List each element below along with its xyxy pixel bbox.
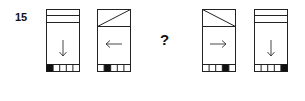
card-2-drawing bbox=[97, 9, 131, 72]
figure-card-1 bbox=[46, 9, 79, 71]
cell-strip bbox=[203, 65, 236, 72]
card-1-drawing bbox=[46, 9, 80, 72]
cell-strip bbox=[98, 65, 131, 72]
figure-card-2 bbox=[97, 9, 130, 71]
cell-strip bbox=[47, 65, 80, 72]
figure-card-4 bbox=[254, 9, 287, 71]
card-4-drawing bbox=[254, 9, 288, 72]
cell-strip bbox=[255, 65, 288, 72]
card-3-drawing bbox=[202, 9, 236, 72]
figure-card-3 bbox=[202, 9, 235, 71]
missing-figure-marker: ? bbox=[160, 31, 169, 48]
question-number: 15 bbox=[15, 11, 27, 23]
